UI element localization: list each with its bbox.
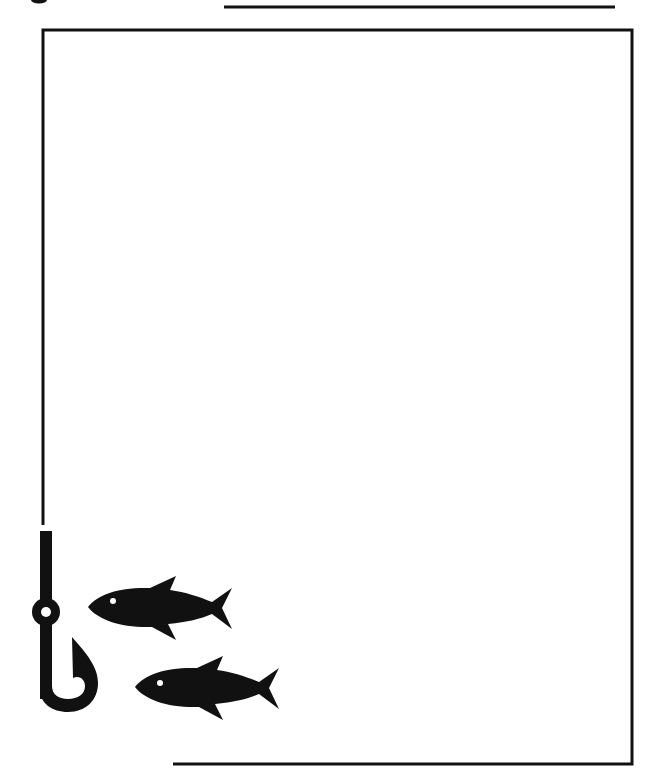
stationery-page (0, 0, 652, 782)
top-glyph-fragment (31, 0, 47, 4)
blank-writing-area (46, 33, 630, 761)
